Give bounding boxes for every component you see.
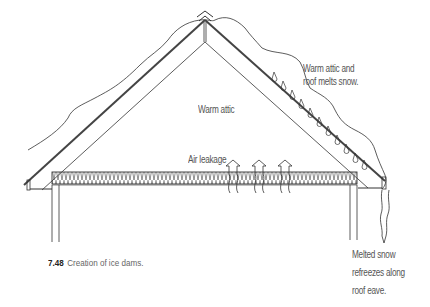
label-refreeze-line1: Melted snow xyxy=(352,248,395,261)
label-refreeze-line3: roof eave. xyxy=(352,284,386,297)
roof-right-deck xyxy=(205,20,385,181)
roof-left-rafter xyxy=(42,42,205,190)
label-melts-line1: Warm attic and xyxy=(303,62,354,75)
icicle xyxy=(380,190,389,243)
figure-number: 7.48 xyxy=(48,257,64,268)
label-air-leakage: Air leakage xyxy=(188,153,226,166)
label-warm-attic: Warm attic xyxy=(198,103,234,116)
label-melts-line2: roof melts snow. xyxy=(303,75,358,88)
ceiling-insulation xyxy=(52,172,357,184)
label-refreeze-line2: refreezes along xyxy=(352,266,405,279)
roof-left-deck xyxy=(24,20,205,185)
figure-caption: 7.48Creation of ice dams. xyxy=(48,257,143,268)
figure-caption-text: Creation of ice dams. xyxy=(67,257,143,268)
